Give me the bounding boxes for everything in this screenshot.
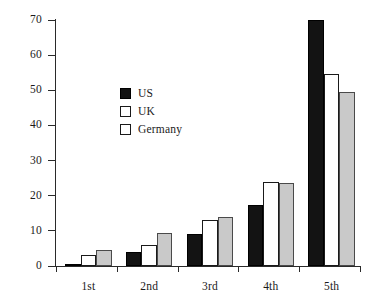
legend-item-uk: UK bbox=[120, 102, 182, 120]
y-axis-tick-label: 30 bbox=[0, 155, 42, 167]
bar-germany-1st bbox=[96, 250, 112, 266]
bar-uk-2nd bbox=[141, 245, 157, 266]
bar-uk-1st bbox=[81, 255, 97, 266]
bar-uk-4th bbox=[263, 182, 279, 266]
y-axis-tick-label: 0 bbox=[0, 260, 42, 272]
plot-area bbox=[56, 20, 360, 266]
x-axis-tick bbox=[238, 266, 239, 272]
x-axis-tick-label: 4th bbox=[241, 280, 301, 292]
y-axis-tick-label: 10 bbox=[0, 225, 42, 237]
legend-item-us: US bbox=[120, 84, 182, 102]
bar-us-1st bbox=[65, 264, 81, 266]
y-axis-tick bbox=[48, 20, 55, 21]
bar-germany-2nd bbox=[157, 233, 173, 266]
bar-us-3rd bbox=[187, 234, 203, 266]
legend-item-germany: Germany bbox=[120, 120, 182, 138]
y-axis-tick-label: 20 bbox=[0, 190, 42, 202]
bar-us-4th bbox=[248, 205, 264, 267]
y-axis-tick bbox=[48, 55, 55, 56]
y-axis-tick bbox=[48, 266, 55, 267]
y-axis-tick bbox=[48, 230, 55, 231]
x-axis-tick-label: 3rd bbox=[180, 280, 240, 292]
y-axis-ticks: 010203040506070 bbox=[0, 0, 56, 306]
y-axis-tick bbox=[48, 90, 55, 91]
legend-swatch-icon bbox=[120, 106, 131, 117]
legend-label: UK bbox=[138, 105, 155, 117]
x-axis-line bbox=[55, 266, 361, 267]
x-axis-tick bbox=[56, 266, 57, 272]
x-axis-tick bbox=[299, 266, 300, 272]
y-axis-tick bbox=[48, 160, 55, 161]
legend-swatch-icon bbox=[120, 124, 131, 135]
x-axis-tick bbox=[117, 266, 118, 272]
bar-germany-5th bbox=[339, 92, 355, 266]
x-axis-tick-label: 5th bbox=[302, 280, 362, 292]
bar-uk-5th bbox=[324, 74, 340, 266]
y-axis-tick bbox=[48, 125, 55, 126]
bar-us-2nd bbox=[126, 252, 142, 266]
bar-germany-3rd bbox=[218, 217, 234, 266]
y-axis-tick-label: 50 bbox=[0, 84, 42, 96]
y-axis-tick-label: 40 bbox=[0, 119, 42, 131]
x-axis-tick-label: 1st bbox=[58, 280, 118, 292]
y-axis-tick-label: 60 bbox=[0, 49, 42, 61]
x-axis-tick bbox=[178, 266, 179, 272]
y-axis-tick-label: 70 bbox=[0, 14, 42, 26]
bar-uk-3rd bbox=[202, 220, 218, 266]
legend-label: US bbox=[138, 87, 153, 99]
legend: USUKGermany bbox=[120, 84, 182, 138]
bar-germany-4th bbox=[279, 183, 295, 266]
x-axis-tick-label: 2nd bbox=[119, 280, 179, 292]
bar-chart: 010203040506070 1st2nd3rd4th5th USUKGerm… bbox=[0, 0, 375, 306]
bar-us-5th bbox=[308, 20, 324, 266]
legend-swatch-icon bbox=[120, 88, 131, 99]
x-axis-tick bbox=[360, 266, 361, 272]
y-axis-tick bbox=[48, 195, 55, 196]
legend-label: Germany bbox=[138, 123, 182, 135]
